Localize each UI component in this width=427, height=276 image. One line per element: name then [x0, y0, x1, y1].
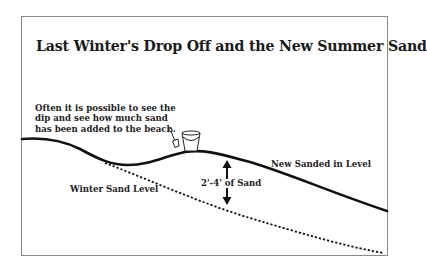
winter-sand-level-label: Winter Sand Level — [70, 184, 158, 194]
winter-sand-level-line — [105, 163, 383, 253]
new-sand-level-label: New Sanded in Level — [271, 159, 371, 169]
sand-depth-label: 2'-4' of Sand — [201, 178, 261, 188]
bucket-icon — [182, 131, 200, 151]
arrow-down-icon — [223, 188, 232, 205]
new-sand-level-line — [22, 138, 387, 211]
arrow-up-icon — [223, 160, 232, 179]
shovel-icon — [169, 128, 179, 147]
